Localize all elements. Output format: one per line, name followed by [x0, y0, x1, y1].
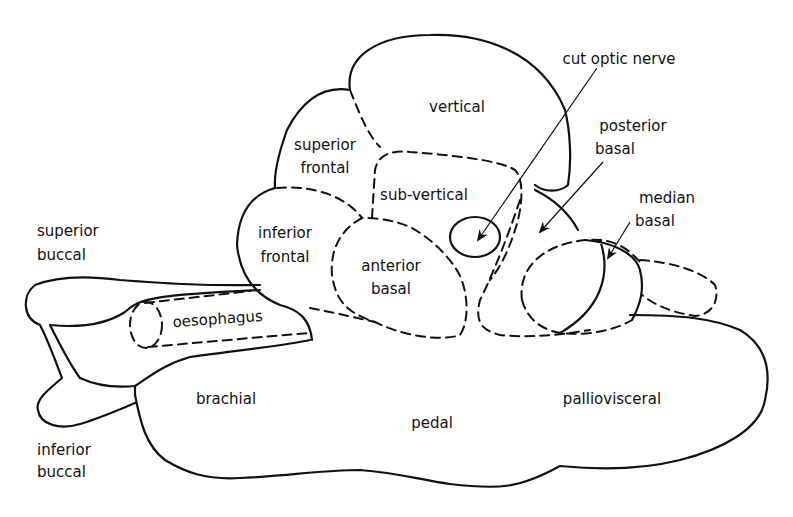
cut-optic-nerve-circle [450, 217, 500, 257]
anterior-basal-outline [332, 218, 467, 338]
label-inferior-buccal-2: buccal [37, 463, 86, 481]
label-superior-frontal-2: frontal [300, 159, 349, 177]
label-inferior-frontal-2: frontal [260, 248, 309, 266]
label-inferior-frontal-1: inferior [258, 224, 313, 242]
label-vertical: vertical [429, 98, 485, 116]
label-inferior-buccal-1: inferior [37, 441, 92, 459]
posterior-bulge-outline [640, 260, 716, 316]
median-basal-solid-arc [560, 240, 642, 333]
superior-frontal-lower-dashed [277, 187, 362, 218]
brain-lobe-diagram: vertical superior frontal inferior front… [0, 0, 793, 517]
label-posterior-basal-2: basal [595, 140, 635, 158]
label-median-basal-1: median [639, 189, 695, 207]
label-cut-optic-nerve: cut optic nerve [562, 50, 675, 68]
oesophagus-junction-dashed [310, 308, 375, 322]
label-anterior-basal-1: anterior [361, 257, 421, 275]
label-oesophagus: oesophagus [172, 307, 264, 331]
median-basal-outline [522, 240, 640, 334]
label-superior-frontal-1: superior [294, 136, 357, 154]
label-palliovisceral: palliovisceral [563, 390, 661, 408]
label-posterior-basal-1: posterior [599, 117, 667, 135]
label-sub-vertical: sub-vertical [380, 186, 468, 204]
label-pedal: pedal [411, 414, 453, 432]
label-median-basal-2: basal [635, 212, 675, 230]
posterior-basal-inner-line [535, 190, 578, 230]
label-superior-buccal-2: buccal [37, 246, 86, 264]
cut-optic-nerve-pointer [478, 68, 597, 240]
oesophagus-opening [130, 302, 162, 348]
buccal-inner-outline [50, 290, 310, 387]
label-brachial: brachial [196, 390, 256, 408]
label-superior-buccal-1: superior [37, 222, 100, 240]
label-anterior-basal-2: basal [371, 280, 411, 298]
